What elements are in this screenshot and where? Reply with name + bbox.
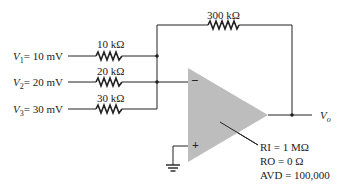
- inverting-input-sign: −: [191, 75, 198, 87]
- input-v2-label: V2= 20 mV: [13, 76, 63, 93]
- opamp-triangle: [188, 68, 268, 162]
- input-v3-label: V3= 30 mV: [13, 103, 63, 120]
- resistor-r2-label: 20 kΩ: [97, 65, 124, 77]
- resistor-r1-label: 10 kΩ: [97, 38, 124, 50]
- resistor-feedback-label: 300 kΩ: [207, 9, 240, 21]
- param-avd: AVD = 100,000: [260, 169, 330, 181]
- summing-amplifier-diagram: V1= 10 mV V2= 20 mV V3= 30 mV 10 kΩ 20 k…: [0, 0, 345, 187]
- input-v1-label: V1= 10 mV: [13, 50, 63, 67]
- param-ri: RI = 1 MΩ: [260, 141, 309, 153]
- output-vo-label: Vo: [320, 109, 331, 126]
- param-ro: RO = 0 Ω: [260, 155, 303, 167]
- resistor-r3-label: 30 kΩ: [97, 92, 124, 104]
- noninverting-input-sign: +: [192, 139, 199, 151]
